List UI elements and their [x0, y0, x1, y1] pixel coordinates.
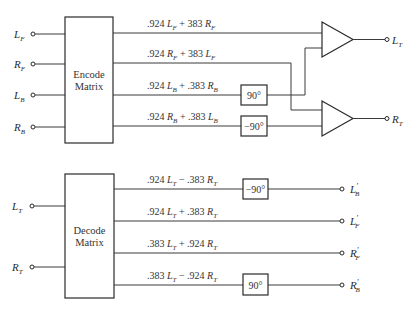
amplifier-triangle-icon: [322, 101, 353, 136]
equation: .924 LF + 383 RF: [147, 18, 216, 32]
equation: .383 LT − .924 RT: [147, 270, 218, 284]
input-label: LT: [11, 200, 23, 215]
block-title: Matrix: [75, 81, 104, 92]
input-terminal-icon: [30, 204, 34, 208]
phase-shift-minus90: −90°: [241, 116, 267, 136]
decoder-path-1: .924 LT − .383 RT −90° L′B: [114, 174, 360, 199]
input-label: RT: [11, 261, 24, 276]
input-label: LB: [13, 89, 25, 104]
encoder-input-rb: RB: [13, 121, 65, 136]
output-terminal-icon: [340, 187, 344, 191]
input-label: LF: [13, 28, 25, 43]
svg-text:−90°: −90°: [246, 184, 266, 195]
decoder-path-4: .383 LT − .924 RT 90° R′B: [114, 270, 360, 295]
input-terminal-icon: [31, 32, 35, 36]
output-terminal-icon: [340, 251, 344, 255]
decoder-path-2: .924 LT + .383 RT L′F: [114, 206, 360, 230]
encoder-input-lf: LF: [13, 28, 65, 43]
decode-matrix-block: Decode Matrix: [65, 174, 114, 298]
output-label: R′F: [349, 246, 360, 262]
equation: .924 RB + .383 LB: [147, 111, 219, 125]
encoder-path-1: .924 LF + 383 RF: [113, 18, 322, 33]
input-terminal-icon: [31, 125, 35, 129]
output-label: L′B: [349, 182, 360, 198]
input-label: RB: [13, 121, 26, 136]
svg-text:90°: 90°: [249, 280, 263, 291]
encoder-input-lb: LB: [13, 89, 65, 104]
encoder-path-4: .924 RB + .383 LB −90°: [113, 111, 322, 136]
output-terminal-icon: [340, 283, 344, 287]
block-title: Encode: [73, 69, 105, 80]
amplifier-triangle-icon: [322, 22, 353, 57]
input-terminal-icon: [30, 265, 34, 269]
matrix-quad-diagram: LF RF LB RB Encode Matrix .924 L: [0, 0, 418, 312]
decoder-input-lt: LT: [11, 200, 65, 215]
block-title: Matrix: [75, 237, 104, 248]
output-terminal-icon: [385, 117, 389, 121]
decoder-path-3: .383 LT + .924 RT R′F: [114, 238, 360, 262]
input-terminal-icon: [31, 93, 35, 97]
encoder-path-2: .924 RF + 383 LF: [113, 48, 322, 110]
output-terminal-icon: [340, 219, 344, 223]
equation: .924 LB + .383 RB: [147, 80, 219, 94]
decoder-input-rt: RT: [11, 261, 65, 276]
equation: .924 LT − .383 RT: [147, 174, 218, 188]
encoder-section: LF RF LB RB Encode Matrix .924 L: [13, 17, 404, 143]
phase-shift-plus90: 90°: [241, 85, 267, 105]
output-label: R′B: [349, 278, 360, 294]
output-label: L′F: [349, 214, 360, 230]
equation: .924 LT + .383 RT: [147, 206, 218, 220]
block-title: Decode: [73, 225, 105, 236]
input-terminal-icon: [31, 62, 35, 66]
summing-amplifier-rt: RT: [322, 101, 404, 136]
equation: .924 RF + 383 LF: [147, 48, 216, 62]
svg-text:−90°: −90°: [244, 121, 264, 132]
svg-text:90°: 90°: [247, 90, 261, 101]
encode-matrix-block: Encode Matrix: [65, 17, 113, 143]
phase-shift-minus90: −90°: [243, 179, 268, 199]
input-label: RF: [13, 58, 26, 73]
output-label: RT: [391, 113, 404, 128]
output-label: LT: [391, 34, 403, 49]
output-terminal-icon: [385, 38, 389, 42]
decoder-section: LT RT Decode Matrix .924 LT − .383 RT −9…: [11, 174, 360, 298]
encoder-input-rf: RF: [13, 58, 65, 73]
summing-amplifier-lt: LT: [322, 22, 403, 57]
phase-shift-plus90: 90°: [243, 274, 268, 295]
equation: .383 LT + .924 RT: [147, 238, 218, 252]
